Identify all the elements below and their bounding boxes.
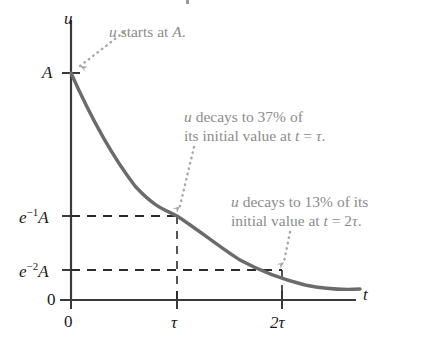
annotation-start: u starts at A. <box>109 22 186 41</box>
y-tick-label-e1A-base: e <box>19 208 27 227</box>
x-tick-label-2tau: 2τ <box>270 314 285 331</box>
annotation-tau-line1: u decays to 37% of <box>184 107 325 126</box>
decay-curve <box>71 73 360 289</box>
y-axis-label: u <box>64 10 73 27</box>
y-tick-label-A: A <box>42 64 52 81</box>
annotation-two-tau-line1: u decays to 13% of its <box>231 192 368 211</box>
annotation-start-line1: u starts at A. <box>109 23 186 40</box>
x-axis-label: t <box>363 286 368 303</box>
annotation-tau: u decays to 37% of its initial value at … <box>184 107 325 145</box>
y-tick-label-e1A-exponent: −1 <box>27 206 39 218</box>
plot-canvas <box>0 0 438 350</box>
x-tick-label-tau: τ <box>171 314 177 331</box>
annotation-leader-two-tau <box>276 232 290 269</box>
y-tick-label-e1A: e−1A <box>19 207 49 226</box>
x-tick-label-zero: 0 <box>64 313 73 330</box>
exponential-decay-figure: u t A e−1A e−2A 0 0 τ 2τ u starts at A. … <box>0 0 438 350</box>
y-tick-label-zero: 0 <box>47 291 56 308</box>
annotation-two-tau-line2: initial value at t = 2τ. <box>231 211 368 230</box>
y-tick-label-e2A-exponent: −2 <box>27 260 39 272</box>
annotation-two-tau: u decays to 13% of its initial value at … <box>231 192 368 230</box>
y-tick-label-e2A-suffix: A <box>38 262 48 281</box>
y-tick-label-e2A-base: e <box>19 262 27 281</box>
y-tick-label-e1A-suffix: A <box>38 208 48 227</box>
annotation-tau-line2: its initial value at t = τ. <box>184 126 325 145</box>
y-tick-label-e2A: e−2A <box>19 261 49 280</box>
annotation-leader-tau <box>172 147 194 214</box>
